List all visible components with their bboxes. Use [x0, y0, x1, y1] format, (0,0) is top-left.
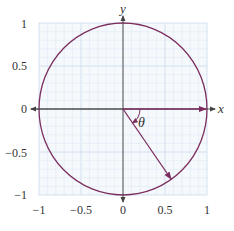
x-tick-label: −0.5 — [70, 203, 92, 217]
y-tick-label: 0.5 — [12, 59, 27, 73]
x-tick-label: 0.5 — [158, 203, 173, 217]
y-tick-label: −0.5 — [5, 146, 27, 160]
x-tick-label: 0 — [120, 203, 126, 217]
unit-circle-diagram: θ x y 1 0.5 0 −0.5 −1 −1 −0.5 0 0.5 1 — [0, 0, 234, 231]
y-axis-label: y — [118, 1, 126, 16]
angle-label: θ — [138, 115, 145, 130]
x-tick-label: −1 — [33, 203, 46, 217]
y-tick-label: −1 — [14, 188, 27, 202]
x-tick-label: 1 — [204, 203, 210, 217]
y-tick-label: 0 — [21, 102, 27, 116]
y-tick-label: 1 — [21, 17, 27, 31]
x-axis-label: x — [217, 101, 224, 116]
